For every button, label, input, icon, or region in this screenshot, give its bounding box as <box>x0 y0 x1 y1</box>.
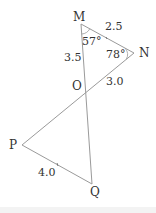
footer-band <box>0 207 156 213</box>
length-label-mo: 3.5 <box>64 51 82 64</box>
vertex-label-p: P <box>9 138 17 152</box>
angle-label-m: 57° <box>82 35 102 48</box>
angle-label-n: 78° <box>106 48 126 61</box>
tick-mark-pq <box>57 163 58 166</box>
segment-np <box>22 53 134 145</box>
vertex-label-n: N <box>139 46 150 60</box>
angle-arc-n <box>125 48 127 59</box>
vertex-label-o: O <box>72 79 82 93</box>
segment-mq <box>81 24 92 184</box>
length-label-pq: 4.0 <box>38 166 56 179</box>
angle-arc-m <box>82 29 90 34</box>
vertex-label-q: Q <box>90 185 100 199</box>
vertex-label-m: M <box>73 10 85 24</box>
geometry-diagram: M N O P Q 2.5 3.5 3.0 4.0 57° 78° <box>0 0 156 213</box>
length-label-on: 3.0 <box>106 75 124 88</box>
length-label-mn: 2.5 <box>105 20 123 33</box>
tick-mark-mn <box>106 37 107 39</box>
